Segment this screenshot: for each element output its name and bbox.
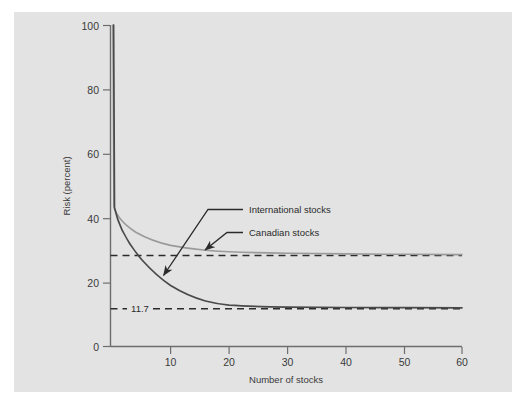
annotation-leader-international bbox=[164, 210, 244, 276]
annotation-international-stocks: International stocks bbox=[164, 204, 332, 276]
reference-lines-group: 11.7 bbox=[111, 255, 463, 314]
annotation-label-canadian-stocks: Canadian stocks bbox=[249, 227, 319, 238]
y-tick-label-40: 40 bbox=[87, 213, 99, 225]
x-tick-label-20: 20 bbox=[223, 356, 235, 368]
annotation-label-international-stocks: International stocks bbox=[249, 204, 331, 215]
y-tick-labels: 100 80 60 40 20 0 bbox=[81, 20, 99, 353]
y-axis-title: Risk (percent) bbox=[61, 156, 72, 215]
y-axis-ticks bbox=[103, 26, 110, 347]
x-axis-ticks bbox=[171, 347, 462, 354]
annotation-leader-canadian bbox=[205, 233, 243, 251]
series-line-international-stocks bbox=[113, 25, 462, 255]
risk-diversification-chart: 100 80 60 40 20 0 10 20 30 40 50 60 Numb… bbox=[0, 0, 529, 413]
series-line-canadian-stocks bbox=[114, 25, 462, 308]
x-tick-label-60: 60 bbox=[456, 356, 468, 368]
x-tick-label-50: 50 bbox=[399, 356, 411, 368]
y-tick-label-100: 100 bbox=[81, 20, 99, 32]
x-axis-title: Number of stocks bbox=[249, 374, 323, 385]
y-tick-label-60: 60 bbox=[87, 148, 99, 160]
y-tick-label-0: 0 bbox=[93, 341, 99, 353]
x-tick-label-30: 30 bbox=[282, 356, 294, 368]
y-tick-label-20: 20 bbox=[87, 277, 99, 289]
axes-group bbox=[103, 25, 462, 354]
x-tick-label-10: 10 bbox=[165, 356, 177, 368]
y-tick-label-80: 80 bbox=[87, 84, 99, 96]
figure-root: 100 80 60 40 20 0 10 20 30 40 50 60 Numb… bbox=[0, 0, 529, 413]
x-tick-label-40: 40 bbox=[340, 356, 352, 368]
annotation-canadian-stocks: Canadian stocks bbox=[205, 227, 319, 250]
x-tick-labels: 10 20 30 40 50 60 bbox=[165, 356, 468, 368]
reference-line-canadian-value: 11.7 bbox=[131, 303, 149, 314]
